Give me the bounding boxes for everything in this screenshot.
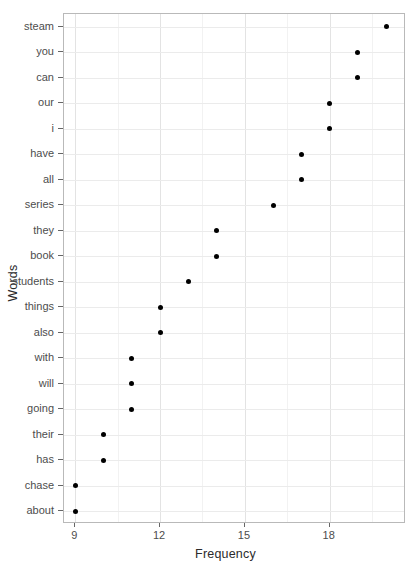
- y-axis-tick: [58, 51, 63, 52]
- y-axis-tick-label: series: [25, 198, 54, 210]
- gridline-y-major: [64, 205, 404, 206]
- y-axis-tick-label: our: [38, 96, 54, 108]
- gridline-x-major: [75, 14, 76, 522]
- data-point: [158, 305, 163, 310]
- y-axis-tick: [58, 255, 63, 256]
- gridline-x-major: [330, 14, 331, 522]
- data-point: [158, 330, 163, 335]
- x-axis-tick-label: 9: [71, 529, 77, 541]
- gridline-x-minor: [202, 14, 203, 522]
- y-axis-tick: [58, 128, 63, 129]
- data-point: [327, 126, 332, 131]
- gridline-y-major: [64, 231, 404, 232]
- gridline-y-major: [64, 282, 404, 283]
- data-point: [214, 254, 219, 259]
- y-axis-tick: [58, 281, 63, 282]
- y-axis-tick-label: book: [30, 249, 54, 261]
- gridline-x-minor: [118, 14, 119, 522]
- gridline-y-major: [64, 103, 404, 104]
- y-axis-tick-label: students: [12, 275, 54, 287]
- gridline-y-major: [64, 256, 404, 257]
- gridline-x-minor: [287, 14, 288, 522]
- data-point: [214, 228, 219, 233]
- data-point: [355, 75, 360, 80]
- x-axis-tick: [329, 523, 330, 527]
- gridline-y-major: [64, 358, 404, 359]
- y-axis-tick: [58, 485, 63, 486]
- dot-plot-figure: Words Frequency 9121518steamyoucanouriha…: [0, 0, 411, 565]
- gridline-y-major: [64, 180, 404, 181]
- data-point: [129, 356, 134, 361]
- gridline-y-major: [64, 460, 404, 461]
- y-axis-tick-label: i: [52, 122, 54, 134]
- y-axis-tick: [58, 306, 63, 307]
- data-point: [186, 279, 191, 284]
- y-axis-tick-label: their: [33, 428, 54, 440]
- gridline-y-major: [64, 154, 404, 155]
- gridline-y-major: [64, 435, 404, 436]
- gridline-y-major: [64, 486, 404, 487]
- plot-panel: [63, 13, 405, 523]
- x-axis-title: Frequency: [0, 547, 411, 561]
- y-axis-tick: [58, 459, 63, 460]
- gridline-x-minor: [372, 14, 373, 522]
- x-axis-tick: [244, 523, 245, 527]
- y-axis-tick-label: you: [36, 45, 54, 57]
- y-axis-tick-label: going: [27, 402, 54, 414]
- y-axis-tick-label: also: [34, 326, 54, 338]
- y-axis-tick-label: have: [30, 147, 54, 159]
- data-point: [384, 24, 389, 29]
- y-axis-tick: [58, 383, 63, 384]
- data-point: [271, 203, 276, 208]
- y-axis-tick-label: will: [39, 377, 54, 389]
- data-point: [129, 407, 134, 412]
- y-axis-tick: [58, 77, 63, 78]
- data-point: [101, 432, 106, 437]
- y-axis-tick-label: can: [36, 71, 54, 83]
- gridline-y-major: [64, 409, 404, 410]
- x-axis-tick-label: 18: [323, 529, 335, 541]
- y-axis-tick: [58, 230, 63, 231]
- x-axis-tick-label: 15: [238, 529, 250, 541]
- data-point: [299, 177, 304, 182]
- gridline-y-major: [64, 78, 404, 79]
- data-point: [327, 101, 332, 106]
- y-axis-tick: [58, 408, 63, 409]
- data-point: [73, 483, 78, 488]
- y-axis-tick: [58, 179, 63, 180]
- gridline-x-major: [160, 14, 161, 522]
- x-axis-tick-label: 12: [153, 529, 165, 541]
- gridline-y-major: [64, 307, 404, 308]
- data-point: [355, 50, 360, 55]
- y-axis-tick-label: they: [33, 224, 54, 236]
- gridline-y-major: [64, 511, 404, 512]
- y-axis-tick-label: chase: [25, 479, 54, 491]
- y-axis-tick: [58, 434, 63, 435]
- data-point: [101, 458, 106, 463]
- y-axis-tick-label: about: [26, 504, 54, 516]
- y-axis-tick-label: things: [25, 300, 54, 312]
- x-axis-tick: [74, 523, 75, 527]
- y-axis-tick: [58, 102, 63, 103]
- x-axis-tick: [159, 523, 160, 527]
- y-axis-tick: [58, 332, 63, 333]
- gridline-y-major: [64, 333, 404, 334]
- y-axis-tick: [58, 26, 63, 27]
- data-point: [299, 152, 304, 157]
- y-axis-tick-label: steam: [24, 20, 54, 32]
- y-axis-tick-label: has: [36, 453, 54, 465]
- y-axis-tick: [58, 153, 63, 154]
- y-axis-tick: [58, 510, 63, 511]
- y-axis-tick: [58, 357, 63, 358]
- gridline-y-major: [64, 27, 404, 28]
- y-axis-tick: [58, 204, 63, 205]
- gridline-y-major: [64, 129, 404, 130]
- data-point: [129, 381, 134, 386]
- data-point: [73, 509, 78, 514]
- gridline-x-major: [245, 14, 246, 522]
- y-axis-tick-label: with: [34, 351, 54, 363]
- gridline-y-major: [64, 52, 404, 53]
- y-axis-tick-label: all: [43, 173, 54, 185]
- gridline-y-major: [64, 384, 404, 385]
